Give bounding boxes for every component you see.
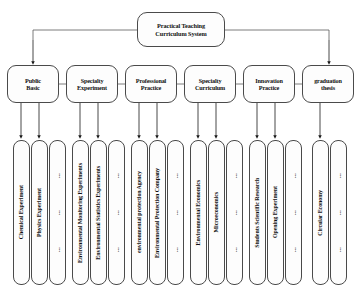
- leaf-label: Microeconomics: [213, 191, 220, 233]
- ellipsis-mark: ...: [336, 210, 342, 215]
- leaf-node-opening-experiment: Opening Experiment: [267, 140, 284, 285]
- branch-node-professional-practice: Professional Practice: [125, 65, 177, 103]
- leaf-node-environmental-economics: Environmental Economics: [190, 140, 207, 285]
- leaf-node-ellipsis-specialty-experiment: ... ... ...: [108, 140, 125, 285]
- branch-label-line-2: Curriculum: [195, 84, 225, 91]
- leaf-node-environmental-protection-company: Environmental Protection Company: [149, 140, 166, 285]
- ellipsis-mark: ...: [55, 210, 61, 215]
- branch-label-line-1: Professional: [136, 77, 166, 84]
- branch-label-line-1: Public: [25, 77, 41, 84]
- ellipsis-mark: ...: [114, 173, 120, 178]
- leaf-node-ellipsis-specialty-curriculum: ... ... ...: [226, 140, 243, 285]
- leaf-label: Opening Experiment: [272, 185, 279, 239]
- ellipsis-mark: ...: [232, 173, 238, 178]
- ellipsis-mark: ...: [114, 247, 120, 252]
- leaf-node-ellipsis-innovation-practice: ... ... ...: [285, 140, 302, 285]
- ellipsis-mark: ...: [336, 173, 342, 178]
- leaf-node-microeconomics: Microeconomics: [208, 140, 225, 285]
- leaf-label: Chemical Experiment: [18, 184, 25, 240]
- root-line-2: Curriculum System: [155, 30, 206, 37]
- leaf-label: Environmental Statistics Experiments: [95, 165, 102, 261]
- root-line-1: Practical Teaching: [155, 22, 206, 29]
- branch-label-line-1: graduation: [314, 77, 342, 84]
- leaf-node-environmental-statistics-experiments: Environmental Statistics Experiments: [90, 140, 107, 285]
- branch-label-line-2: Basic: [25, 84, 41, 91]
- branch-label-line-1: Innovation: [255, 77, 282, 84]
- ellipsis-mark: ...: [291, 210, 297, 215]
- leaf-label: Physics Experiment: [36, 187, 43, 238]
- leaf-node-environmental-monitoring-experiments: Environmental Monitoring Experiments: [72, 140, 89, 285]
- leaf-label: environmental protection Agency: [136, 170, 143, 254]
- root-node-practical-teaching-curriculum-system: Practical Teaching Curriculum System: [137, 12, 225, 47]
- branch-node-innovation-practice: Innovation Practice: [243, 65, 295, 103]
- branch-node-public-basic: Public Basic: [7, 65, 59, 103]
- leaf-label: Environmental Monitoring Experiments: [77, 162, 84, 264]
- leaf-label: Environmental Economics: [195, 179, 202, 246]
- leaf-node-circular-economy: Circular Economy: [312, 140, 329, 285]
- branch-label-line-1: Specialty: [77, 77, 107, 84]
- leaf-node-environmental-protection-agency: environmental protection Agency: [131, 140, 148, 285]
- ellipsis-mark: ...: [232, 210, 238, 215]
- ellipsis-mark: ...: [55, 173, 61, 178]
- practical-teaching-curriculum-diagram: Practical Teaching Curriculum System Pub…: [0, 0, 361, 293]
- ellipsis-mark: ...: [114, 210, 120, 215]
- ellipsis-mark: ...: [173, 247, 179, 252]
- branch-label-line-2: Experiment: [77, 84, 107, 91]
- leaf-node-chemical-experiment: Chemical Experiment: [13, 140, 30, 285]
- leaf-node-ellipsis-professional-practice: ... ... ...: [167, 140, 184, 285]
- branch-node-specialty-curriculum: Specialty Curriculum: [184, 65, 236, 103]
- branch-node-graduation-thesis: graduation thesis: [302, 65, 354, 103]
- ellipsis-mark: ...: [336, 247, 342, 252]
- branch-label-line-2: thesis: [314, 84, 342, 91]
- ellipsis-mark: ...: [291, 173, 297, 178]
- ellipsis-mark: ...: [173, 210, 179, 215]
- ellipsis-mark: ...: [173, 173, 179, 178]
- ellipsis-mark: ...: [55, 247, 61, 252]
- leaf-node-students-scientific-research: Students Scientific Research: [249, 140, 266, 285]
- branch-label-line-2: Practice: [255, 84, 282, 91]
- branch-label-line-1: Specialty: [195, 77, 225, 84]
- branch-node-specialty-experiment: Specialty Experiment: [66, 65, 118, 103]
- leaf-node-ellipsis-public-basic: ... ... ...: [49, 140, 66, 285]
- leaf-label: Environmental Protection Company: [154, 167, 161, 259]
- leaf-label: Circular Economy: [317, 189, 324, 237]
- leaf-node-physics-experiment: Physics Experiment: [31, 140, 48, 285]
- ellipsis-mark: ...: [232, 247, 238, 252]
- ellipsis-mark: ...: [291, 247, 297, 252]
- branch-label-line-2: Practice: [136, 84, 166, 91]
- leaf-node-ellipsis-graduation-thesis: ... ... ...: [330, 140, 347, 285]
- leaf-label: Students Scientific Research: [254, 177, 261, 249]
